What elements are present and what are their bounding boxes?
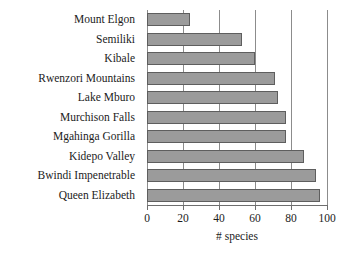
category-label: Mgahinga Gorilla	[0, 127, 141, 147]
category-label: Queen Elizabeth	[0, 186, 141, 206]
x-tick-label: 80	[285, 211, 297, 225]
x-tick-label: 0	[144, 211, 150, 225]
category-label: Murchison Falls	[0, 108, 141, 128]
bar-slot	[147, 127, 327, 147]
bar	[147, 150, 304, 163]
category-label: Lake Mburo	[0, 88, 141, 108]
bar-slot	[147, 147, 327, 167]
x-tick-label: 40	[213, 211, 225, 225]
bar	[147, 33, 242, 46]
bar-chart: Mount ElgonSemilikiKibaleRwenzori Mounta…	[0, 0, 351, 265]
category-axis-labels: Mount ElgonSemilikiKibaleRwenzori Mounta…	[0, 10, 141, 205]
bar	[147, 169, 316, 182]
bar	[147, 91, 278, 104]
category-label: Bwindi Impenetrable	[0, 166, 141, 186]
category-label: Mount Elgon	[0, 10, 141, 30]
x-tick-label: 60	[249, 211, 261, 225]
bar	[147, 13, 190, 26]
bar-slot	[147, 88, 327, 108]
bar	[147, 52, 255, 65]
category-label: Semiliki	[0, 30, 141, 50]
bar	[147, 111, 286, 124]
bar-slot	[147, 69, 327, 89]
x-axis-ticks	[147, 205, 327, 210]
category-label: Rwenzori Mountains	[0, 69, 141, 89]
bar-slot	[147, 30, 327, 50]
x-tick-label: 100	[318, 211, 335, 225]
category-label: Kibale	[0, 49, 141, 69]
bar-slot	[147, 108, 327, 128]
bar-slot	[147, 10, 327, 30]
x-tick	[255, 205, 256, 210]
x-tick-label: 20	[177, 211, 189, 225]
category-label: Kidepo Valley	[0, 147, 141, 167]
bar	[147, 189, 320, 202]
x-tick	[219, 205, 220, 210]
plot-area	[147, 10, 327, 205]
x-axis-tick-labels: 020406080100	[147, 211, 327, 227]
bar-slot	[147, 166, 327, 186]
bar-slot	[147, 186, 327, 206]
bar-slot	[147, 49, 327, 69]
x-tick	[183, 205, 184, 210]
x-axis-title: # species	[147, 229, 327, 243]
x-tick	[327, 205, 328, 210]
bar	[147, 72, 275, 85]
x-tick	[291, 205, 292, 210]
x-tick	[147, 205, 148, 210]
bar-series	[147, 10, 327, 205]
bar	[147, 130, 286, 143]
gridline	[327, 10, 328, 205]
